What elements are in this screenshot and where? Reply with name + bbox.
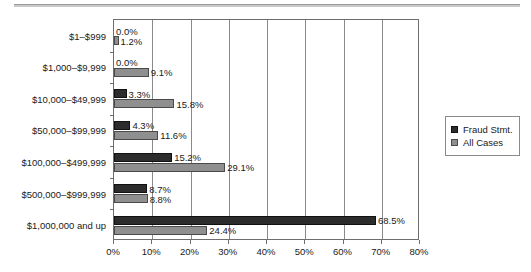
x-axis-tick — [228, 240, 229, 244]
y-axis-tick — [110, 115, 114, 116]
bar-group: $500,000–$999,9998.7%8.8% — [114, 178, 418, 210]
bar-all-cases: 24.4% — [114, 226, 207, 235]
bar-fraud-stmt: 4.3% — [114, 121, 130, 130]
bar-value-label: 9.1% — [151, 67, 173, 78]
y-axis-tick — [110, 52, 114, 53]
bar-value-label: 24.4% — [209, 225, 236, 236]
x-axis-tick — [151, 240, 152, 244]
chart-legend: Fraud Stmt.All Cases — [445, 116, 520, 156]
bar-all-cases: 9.1% — [114, 68, 149, 77]
bar-value-label: 8.8% — [150, 193, 172, 204]
bar-group: $1–$9990.0%1.2% — [114, 20, 418, 52]
top-divider-rule — [14, 4, 520, 7]
category-label: $1,000–$9,999 — [43, 62, 106, 73]
bar-fraud-stmt: 3.3% — [114, 89, 127, 98]
y-axis-tick — [110, 178, 114, 179]
bar-group: $10,000–$49,9993.3%15.8% — [114, 83, 418, 115]
x-axis-tick-label: 50% — [295, 246, 314, 257]
y-axis-tick — [110, 83, 114, 84]
legend-label: All Cases — [463, 137, 503, 148]
bar-rows: $1–$9990.0%1.2%$1,000–$9,9990.0%9.1%$10,… — [114, 20, 418, 239]
legend-swatch-icon — [451, 139, 458, 146]
bar-value-label: 1.2% — [121, 35, 143, 46]
x-axis-tick-label: 40% — [256, 246, 275, 257]
chart-figure: $1–$9990.0%1.2%$1,000–$9,9990.0%9.1%$10,… — [0, 0, 531, 272]
category-label: $1–$999 — [69, 30, 106, 41]
bar-value-label: 3.3% — [129, 88, 151, 99]
legend-swatch-icon — [451, 126, 458, 133]
x-axis-tick — [190, 240, 191, 244]
bar-fraud-stmt: 15.2% — [114, 153, 172, 162]
bar-group: $50,000–$99,9994.3%11.6% — [114, 115, 418, 147]
bar-value-label: 15.2% — [174, 152, 201, 163]
bar-all-cases: 1.2% — [114, 36, 119, 45]
category-label: $500,000–$999,999 — [21, 188, 106, 199]
bar-group: $1,000,000 and up68.5%24.4% — [114, 209, 418, 241]
legend-label: Fraud Stmt. — [463, 124, 513, 135]
x-axis-tick-label: 0% — [106, 246, 120, 257]
x-axis-tick — [343, 240, 344, 244]
x-axis-tick — [266, 240, 267, 244]
legend-item[interactable]: All Cases — [451, 137, 513, 148]
bar-fraud-stmt: 68.5% — [114, 216, 376, 225]
x-axis-tick — [381, 240, 382, 244]
bar-all-cases: 29.1% — [114, 163, 225, 172]
bar-value-label: 4.3% — [132, 120, 154, 131]
x-axis-tick-label: 60% — [333, 246, 352, 257]
bar-all-cases: 11.6% — [114, 131, 158, 140]
plot-area: $1–$9990.0%1.2%$1,000–$9,9990.0%9.1%$10,… — [113, 19, 419, 240]
x-axis-tick-label: 70% — [371, 246, 390, 257]
x-axis-tick-label: 30% — [218, 246, 237, 257]
bar-fraud-stmt: 8.7% — [114, 184, 147, 193]
y-axis-tick — [110, 146, 114, 147]
bar-all-cases: 15.8% — [114, 99, 174, 108]
x-axis-tick-label: 10% — [142, 246, 161, 257]
x-axis: 0%10%20%30%40%50%60%70%80% — [113, 240, 419, 266]
x-axis-tick-label: 80% — [409, 246, 428, 257]
category-label: $50,000–$99,999 — [32, 125, 106, 136]
bar-value-label: 29.1% — [227, 162, 254, 173]
x-axis-tick — [304, 240, 305, 244]
bar-all-cases: 8.8% — [114, 194, 148, 203]
bar-group: $1,000–$9,9990.0%9.1% — [114, 52, 418, 84]
category-label: $1,000,000 and up — [27, 220, 106, 231]
y-axis-tick — [110, 209, 114, 210]
bar-value-label: 15.8% — [176, 98, 203, 109]
bar-value-label: 0.0% — [116, 57, 138, 68]
bar-value-label: 11.6% — [160, 130, 186, 141]
legend-item[interactable]: Fraud Stmt. — [451, 124, 513, 135]
bar-value-label: 68.5% — [378, 215, 405, 226]
x-axis-tick-label: 20% — [180, 246, 199, 257]
category-label: $10,000–$49,999 — [32, 93, 106, 104]
x-axis-tick — [419, 240, 420, 244]
category-label: $100,000–$499,999 — [21, 157, 106, 168]
x-axis-tick — [113, 240, 114, 244]
bar-group: $100,000–$499,99915.2%29.1% — [114, 146, 418, 178]
